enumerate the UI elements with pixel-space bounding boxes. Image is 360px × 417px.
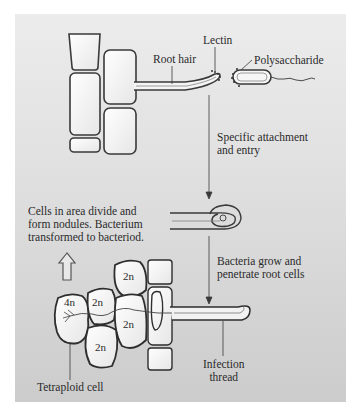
root-hair: [134, 74, 220, 91]
curled-root-hair: [170, 205, 241, 229]
flow-arrow-2: [206, 236, 212, 304]
label-lectin: Lectin: [203, 34, 232, 47]
cell-label-4n: 4n: [64, 296, 75, 308]
cell-label-2n-top: 2n: [123, 270, 134, 282]
cell-label-2n-middle: 2n: [123, 318, 134, 330]
flow-arrow-1: [206, 95, 212, 199]
label-tetraploid-cell: Tetraploid cell: [37, 381, 104, 394]
label-infection-thread: Infection thread: [203, 358, 245, 384]
label-polysaccharide: Polysaccharide: [254, 54, 324, 67]
label-specific-attachment: Specific attachment and entry: [217, 131, 308, 157]
cell-label-2n-bottom: 2n: [95, 341, 106, 353]
label-root-hair: Root hair: [153, 53, 196, 66]
root-epidermis-cells: [69, 34, 136, 154]
hollow-up-arrow-icon: [59, 253, 75, 280]
bacterium: [231, 68, 315, 87]
label-bacteria-grow: Bacteria grow and penetrate root cells: [217, 255, 305, 281]
label-cells-divide: Cells in area divide and form nodules. B…: [28, 205, 144, 244]
cell-label-2n-upper-left: 2n: [92, 296, 103, 308]
